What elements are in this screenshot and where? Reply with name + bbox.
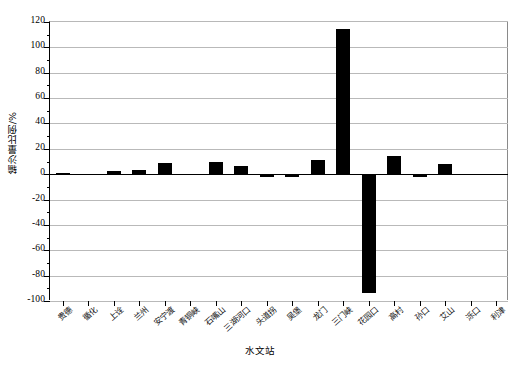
y-axis-minor-tick: [47, 35, 50, 36]
x-axis-label: 上诠: [105, 303, 125, 323]
x-axis-title: 水文站: [0, 343, 519, 357]
y-axis-label: 40: [0, 117, 45, 127]
bar: [489, 174, 503, 175]
y-axis-label: 100: [0, 41, 45, 51]
gridline: [50, 73, 508, 74]
gridline: [50, 301, 508, 302]
gridline: [50, 98, 508, 99]
bar: [464, 174, 478, 175]
y-axis-label: 0: [0, 168, 45, 178]
bar: [107, 171, 121, 174]
y-axis-label: 80: [0, 67, 45, 77]
x-axis-label: 兰州: [130, 303, 150, 323]
y-axis-minor-tick: [47, 111, 50, 112]
y-axis-label: -60: [0, 244, 45, 254]
bar: [132, 170, 146, 174]
gridline: [50, 200, 508, 201]
y-axis-label: 20: [0, 143, 45, 153]
x-axis-label: 三湖河口: [220, 303, 252, 333]
y-axis-minor-tick: [47, 187, 50, 188]
plot-right-border: [507, 22, 508, 300]
y-axis-minor-tick: [47, 136, 50, 137]
bar: [387, 156, 401, 174]
gridline: [50, 276, 508, 277]
zero-axis-line: [50, 174, 508, 175]
bar: [81, 174, 95, 175]
bar: [158, 163, 172, 174]
x-axis-label: 泺口: [462, 303, 482, 323]
gridline: [50, 149, 508, 150]
y-axis-minor-tick: [47, 288, 50, 289]
bar: [56, 173, 70, 174]
x-axis-label: 三门峡: [328, 303, 354, 328]
bar: [285, 174, 299, 177]
y-axis-minor-tick: [47, 212, 50, 213]
chart-figure: 输沙量比例/% 水文站 120100806040200-20-40-60-80-…: [0, 0, 519, 366]
y-axis-label: -100: [0, 295, 45, 305]
y-axis-label: -40: [0, 219, 45, 229]
bar: [311, 160, 325, 175]
x-axis-label: 孙口: [411, 303, 431, 323]
y-axis-minor-tick: [47, 85, 50, 86]
bar: [336, 29, 350, 174]
x-axis-label: 龙门: [309, 303, 329, 323]
plot-area: [49, 21, 508, 300]
x-axis-label: 安宁渡: [150, 303, 176, 328]
x-axis-label: 头道拐: [252, 303, 278, 328]
y-axis-label: 60: [0, 92, 45, 102]
y-axis-minor-tick: [47, 162, 50, 163]
bar: [438, 164, 452, 174]
y-axis-label: -20: [0, 194, 45, 204]
x-axis-label: 利津: [487, 303, 507, 323]
gridline: [50, 123, 508, 124]
y-axis-label: 120: [0, 16, 45, 26]
gridline: [50, 250, 508, 251]
y-axis-minor-tick: [47, 263, 50, 264]
y-axis-minor-tick: [47, 60, 50, 61]
x-axis-label: 青铜峡: [175, 303, 201, 328]
bar: [413, 174, 427, 177]
bar: [362, 174, 376, 293]
bar: [234, 166, 248, 174]
bar: [183, 174, 197, 175]
bar: [209, 162, 223, 174]
gridline: [50, 225, 508, 226]
x-axis-label: 贵德: [54, 303, 74, 323]
x-axis-label: 花园口: [354, 303, 380, 328]
y-axis-minor-tick: [47, 238, 50, 239]
x-axis-label: 吴堡: [283, 303, 303, 323]
y-axis-label: -80: [0, 270, 45, 280]
bar: [260, 174, 274, 177]
x-axis-label: 高村: [385, 303, 405, 323]
x-axis-label: 艾山: [436, 303, 456, 323]
x-axis-label: 循化: [79, 303, 99, 323]
gridline: [50, 47, 508, 48]
